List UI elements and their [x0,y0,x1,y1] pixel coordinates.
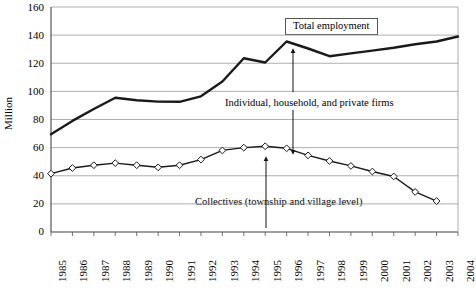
x-tick-marks [51,232,458,236]
gridlines [51,7,458,204]
data-series-layer [48,37,458,205]
annotation-arrows [266,50,293,228]
